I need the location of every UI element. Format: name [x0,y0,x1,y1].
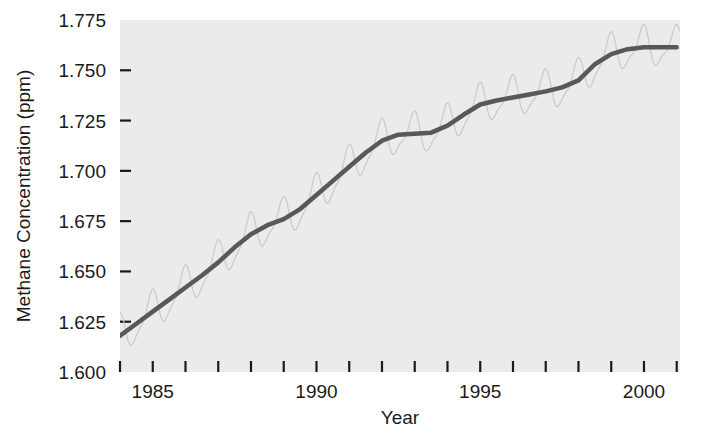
y-tick-label: 1.725 [58,111,106,132]
y-tick-label: 1.775 [58,10,106,31]
x-tick-label: 1985 [132,381,174,402]
y-tick-label: 1.625 [58,312,106,333]
y-tick-label: 1.600 [58,362,106,383]
y-tick-label: 1.750 [58,60,106,81]
y-tick-label: 1.650 [58,261,106,282]
x-tick-label: 1990 [295,381,337,402]
x-axis-title: Year [381,407,420,428]
y-tick-label: 1.700 [58,161,106,182]
methane-concentration-chart: 1.6001.6251.6501.6751.7001.7251.7501.775… [0,0,716,446]
chart-canvas: 1.6001.6251.6501.6751.7001.7251.7501.775… [0,0,716,446]
x-tick-label: 1995 [459,381,501,402]
y-tick-label: 1.675 [58,211,106,232]
x-tick-label: 2000 [623,381,665,402]
y-axis-title: Methane Concentration (ppm) [13,70,34,322]
